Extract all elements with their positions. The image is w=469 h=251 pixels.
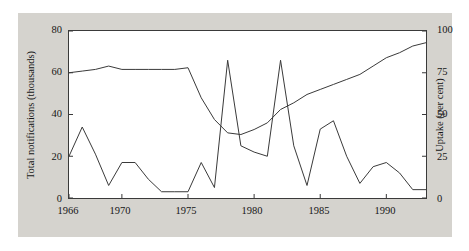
y-right-tick-0: 0 [437, 193, 463, 204]
x-tick-1985: 1985 [299, 205, 339, 216]
axis-ticks [69, 31, 426, 198]
plot-area [68, 30, 427, 199]
x-tick-1975: 1975 [166, 205, 206, 216]
y-left-tick-20: 20 [36, 151, 62, 162]
y-axis-left-title: Total notifications (thousands) [23, 30, 37, 199]
y-right-tick-25: 25 [437, 151, 463, 162]
y-right-tick-50: 50 [437, 108, 463, 119]
x-tick-1990: 1990 [365, 205, 405, 216]
uptake-line [69, 43, 426, 135]
notifications-line [69, 60, 426, 192]
chart-figure: Total notifications (thousands) Uptake (… [0, 0, 469, 251]
chart-canvas [69, 31, 426, 198]
y-left-tick-80: 80 [36, 24, 62, 35]
y-left-tick-40: 40 [36, 108, 62, 119]
y-left-tick-0: 0 [36, 193, 62, 204]
y-right-tick-75: 75 [437, 66, 463, 77]
y-left-tick-60: 60 [36, 66, 62, 77]
x-tick-1980: 1980 [232, 205, 272, 216]
y-right-tick-100: 100 [437, 24, 463, 35]
x-tick-1966: 1966 [48, 205, 88, 216]
y-axis-left-title-text: Total notifications (thousands) [25, 50, 36, 178]
x-tick-1970: 1970 [100, 205, 140, 216]
